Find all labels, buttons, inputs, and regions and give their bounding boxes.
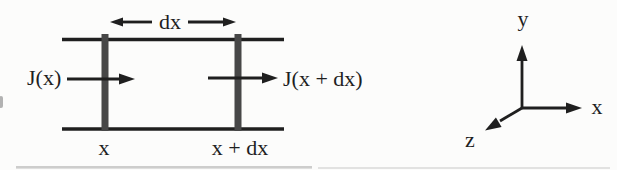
dx-width-label: dx xyxy=(159,9,181,34)
x-axis-arrow-head xyxy=(566,103,582,114)
y-axis-label: y xyxy=(518,6,529,31)
bottom-smudge-left xyxy=(16,166,312,169)
scan-artifacts xyxy=(0,96,610,169)
flux-in-label: J(x) xyxy=(27,65,61,90)
z-axis-label: z xyxy=(465,127,475,152)
bottom-smudge-right xyxy=(318,167,610,169)
position-label-x: x xyxy=(99,135,110,160)
dx-arrow-left-head xyxy=(110,18,123,27)
coordinate-axes: y x z xyxy=(465,6,602,152)
figure-canvas: dx J(x) J(x + dx) x x + dx y xyxy=(0,0,617,170)
y-axis-arrow-head xyxy=(517,45,528,61)
dx-arrow-right-head xyxy=(223,18,236,27)
slab-diagram: dx J(x) J(x + dx) x x + dx xyxy=(27,9,363,160)
flux-out-label: J(x + dx) xyxy=(283,66,363,91)
position-label-x-plus-dx: x + dx xyxy=(212,135,268,160)
z-axis-arrow-head xyxy=(485,118,502,131)
flux-out-arrow-head xyxy=(262,73,278,84)
flux-in-arrow xyxy=(67,74,135,85)
flux-in-arrow-head xyxy=(119,74,135,85)
slab-face-bar-left xyxy=(102,34,109,131)
z-axis-shaft xyxy=(500,108,522,121)
flux-out-arrow xyxy=(208,73,278,84)
x-axis-label: x xyxy=(592,94,603,119)
page-edge-artifact xyxy=(0,96,3,108)
slab-face-bar-right xyxy=(235,34,242,131)
flux-slab-figure: dx J(x) J(x + dx) x x + dx y xyxy=(0,0,617,170)
